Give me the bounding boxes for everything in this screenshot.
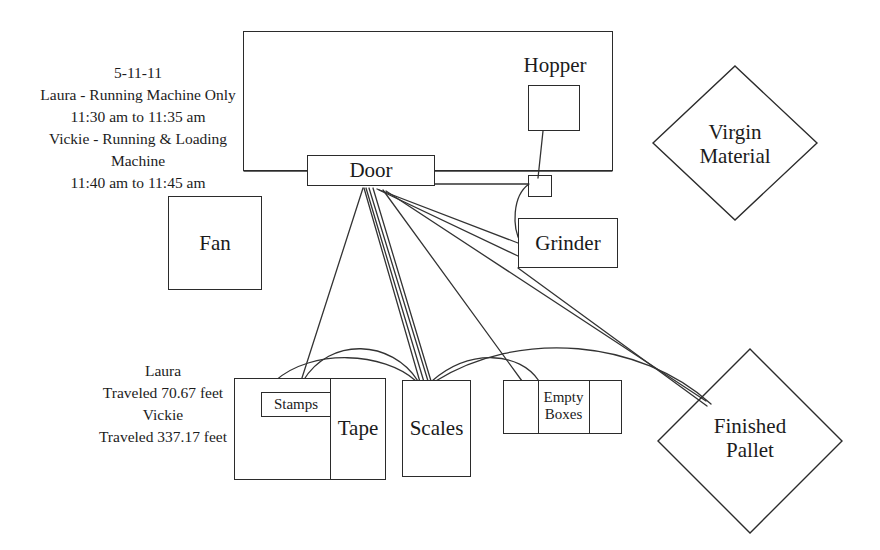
path-door-to-empty-boxes [383, 190, 522, 381]
diagram-canvas: Hopper Door Grinder Fan Virgin Material … [0, 0, 880, 550]
machine-port-square [528, 175, 552, 197]
fan-box: Fan [168, 196, 262, 290]
stamps-label: Stamps [274, 396, 318, 413]
stamps-box: Stamps [261, 392, 331, 417]
path-door-to-table-left [301, 188, 363, 381]
path-door-to-scales-b [366, 188, 424, 382]
grinder-label: Grinder [535, 231, 600, 255]
hopper-box [528, 85, 580, 131]
time-study-note: 5-11-11 Laura - Running Machine Only 11:… [28, 62, 248, 194]
empty-boxes-label: Empty Boxes [538, 389, 589, 424]
empty-boxes-divider-right [589, 380, 590, 434]
fan-label: Fan [199, 231, 231, 255]
distance-note: Laura Traveled 70.67 feet Vickie Travele… [88, 360, 238, 448]
arc-scales-to-empty-boxes [432, 358, 539, 381]
path-door-to-scales-c [369, 188, 428, 381]
door-box: Door [307, 155, 435, 186]
door-label: Door [349, 158, 392, 182]
arc-tape-to-scales [303, 349, 418, 381]
path-door-to-scales-a [364, 188, 420, 382]
tape-label: Tape [330, 416, 386, 440]
path-door-to-grinder-upper [377, 189, 518, 243]
grinder-box: Grinder [518, 218, 618, 268]
finished-pallet-label: Finished Pallet [675, 414, 825, 463]
hopper-label: Hopper [500, 53, 610, 77]
virgin-material-label: Virgin Material [665, 120, 805, 169]
scales-box: Scales [402, 380, 471, 477]
scales-label: Scales [410, 416, 464, 440]
